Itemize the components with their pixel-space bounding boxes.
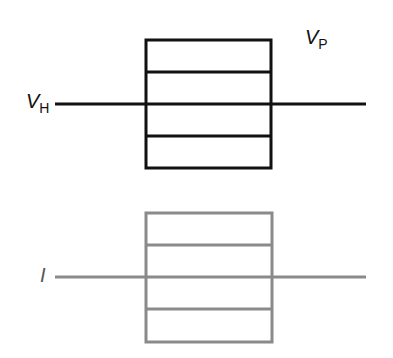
i-main: I — [40, 264, 46, 286]
vh-sub: H — [39, 100, 49, 116]
vh-main: V — [26, 90, 39, 112]
i-label: I — [40, 264, 46, 287]
vh-label: VH — [26, 90, 49, 113]
vp-sub: P — [318, 36, 327, 52]
top-diagram — [55, 40, 366, 168]
diagram-canvas — [0, 0, 393, 358]
vp-main: V — [305, 26, 318, 48]
vp-label: VP — [305, 26, 328, 49]
bottom-diagram — [55, 213, 366, 342]
